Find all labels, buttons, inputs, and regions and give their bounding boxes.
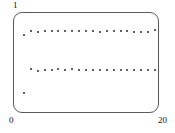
data-point [126, 30, 128, 32]
data-point [64, 30, 66, 32]
data-point [71, 68, 73, 70]
data-point [126, 69, 128, 71]
data-point [78, 30, 80, 32]
y-axis-min-label: 0 [9, 116, 14, 125]
data-point [113, 69, 115, 71]
data-point [57, 30, 59, 32]
data-point [44, 69, 46, 71]
data-point [147, 31, 149, 33]
data-point [106, 69, 108, 71]
data-point [106, 30, 108, 32]
data-point [99, 69, 101, 71]
x-axis-max-label: 20 [158, 116, 167, 125]
data-point [99, 31, 101, 33]
data-point [64, 69, 66, 71]
data-point [113, 30, 115, 32]
data-point [92, 30, 94, 32]
data-point [30, 30, 32, 32]
data-point [85, 30, 87, 32]
data-point [57, 68, 59, 70]
data-point [147, 69, 149, 71]
data-point [44, 30, 46, 32]
data-point [140, 69, 142, 71]
data-point [23, 34, 25, 36]
scatter-chart-figure: 1 0 20 [0, 0, 175, 133]
data-point [154, 69, 156, 71]
data-point [133, 31, 135, 33]
data-point [154, 29, 156, 31]
data-point [133, 69, 135, 71]
y-axis-max-label: 1 [13, 1, 18, 10]
data-point [120, 30, 122, 32]
data-point [51, 30, 53, 32]
data-point [37, 70, 39, 72]
data-point [71, 30, 73, 32]
data-point [140, 31, 142, 33]
data-point [30, 68, 32, 70]
data-point-layer [0, 0, 175, 133]
data-point [78, 69, 80, 71]
data-point [23, 92, 25, 94]
data-point [85, 69, 87, 71]
data-point [92, 69, 94, 71]
data-point [120, 69, 122, 71]
data-point [51, 69, 53, 71]
data-point [37, 31, 39, 33]
